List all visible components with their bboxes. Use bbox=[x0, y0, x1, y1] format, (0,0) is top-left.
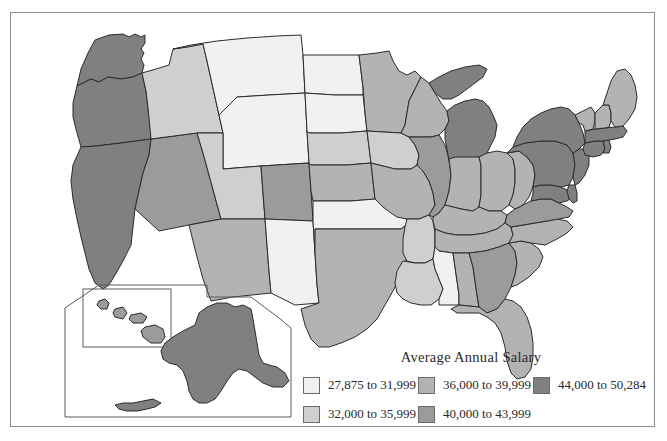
state-ohio bbox=[479, 151, 515, 211]
state-hawaii-big-island bbox=[141, 325, 165, 343]
state-alaska bbox=[161, 303, 289, 403]
legend-swatch-class-1 bbox=[303, 406, 320, 423]
state-hawaii-molokai-maui bbox=[129, 313, 147, 323]
legend-entry: 40,000 to 43,999 bbox=[418, 402, 531, 426]
state-new-hampshire bbox=[595, 105, 611, 129]
state-rhode-island bbox=[603, 140, 611, 153]
legend-label-class-0: 27,875 to 31,999 bbox=[328, 377, 416, 393]
legend-label-class-4: 44,000 to 50,284 bbox=[558, 377, 646, 393]
legend-label-class-1: 32,000 to 35,999 bbox=[328, 406, 416, 422]
legend-entry: 32,000 to 35,999 bbox=[303, 402, 416, 426]
alaska-aleutian-chain bbox=[115, 399, 161, 411]
state-hawaii-oahu bbox=[113, 307, 127, 319]
state-california bbox=[71, 139, 151, 289]
state-new-mexico bbox=[265, 219, 319, 305]
state-michigan-up bbox=[429, 65, 487, 99]
state-colorado bbox=[261, 163, 313, 221]
legend-swatch-class-2 bbox=[418, 377, 435, 394]
state-south-dakota bbox=[305, 93, 367, 133]
state-wyoming bbox=[219, 93, 309, 169]
state-arizona bbox=[189, 219, 271, 301]
map-figure-root: .st{stroke:#2b2b2b;stroke-width:1;stroke… bbox=[0, 0, 667, 441]
legend-label-class-2: 36,000 to 39,999 bbox=[443, 377, 531, 393]
state-texas bbox=[301, 223, 411, 347]
legend-column-2: 36,000 to 39,999 40,000 to 43,999 bbox=[418, 373, 531, 431]
state-oregon bbox=[73, 73, 151, 147]
state-kansas bbox=[309, 163, 375, 201]
legend-swatch-class-0 bbox=[303, 377, 320, 394]
legend-swatch-class-4 bbox=[533, 377, 550, 394]
map-legend: Average Annual Salary 27,875 to 31,999 3… bbox=[293, 343, 651, 423]
state-connecticut bbox=[583, 141, 605, 157]
legend-entry: 36,000 to 39,999 bbox=[418, 373, 531, 397]
state-nebraska bbox=[307, 131, 371, 165]
state-indiana bbox=[445, 157, 481, 211]
state-arkansas bbox=[403, 215, 435, 263]
legend-entry: 27,875 to 31,999 bbox=[303, 373, 416, 397]
figure-frame: .st{stroke:#2b2b2b;stroke-width:1;stroke… bbox=[10, 12, 655, 427]
legend-column-1: 27,875 to 31,999 32,000 to 35,999 bbox=[303, 373, 416, 431]
legend-title: Average Annual Salary bbox=[361, 349, 581, 366]
legend-entry: 44,000 to 50,284 bbox=[533, 373, 646, 397]
legend-label-class-3: 40,000 to 43,999 bbox=[443, 406, 531, 422]
state-north-dakota bbox=[303, 55, 363, 95]
legend-swatch-class-3 bbox=[418, 406, 435, 423]
state-hawaii-kauai bbox=[97, 299, 109, 309]
legend-column-3: 44,000 to 50,284 bbox=[533, 373, 646, 402]
